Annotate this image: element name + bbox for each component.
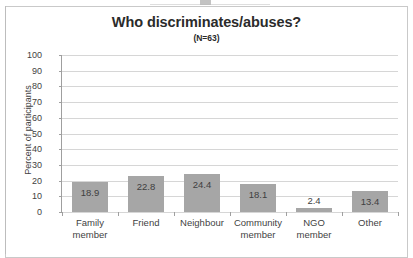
- bar-value-label: 22.8: [121, 182, 171, 192]
- chart-title: Who discriminates/abuses?: [0, 14, 413, 30]
- x-category-label-line: Other: [337, 217, 403, 229]
- y-tick-mark: [59, 196, 62, 197]
- y-tick-label: 40: [2, 145, 42, 154]
- y-tick-label: 0: [2, 208, 42, 217]
- x-tick-mark: [230, 212, 231, 216]
- scan-artifact-smudge: [200, 0, 211, 5]
- y-tick-mark: [59, 165, 62, 166]
- x-category-label-line: member: [57, 229, 123, 241]
- y-tick-label: 80: [2, 82, 42, 91]
- y-gridline: [62, 86, 398, 87]
- y-gridline: [62, 55, 398, 56]
- y-tick-mark: [59, 181, 62, 182]
- x-tick-mark: [118, 212, 119, 216]
- y-tick-mark: [59, 118, 62, 119]
- y-tick-mark: [59, 134, 62, 135]
- bar-value-label: 18.1: [233, 190, 283, 200]
- bar-value-label: 18.9: [65, 188, 115, 198]
- bar[interactable]: [296, 208, 332, 212]
- chart-subtitle: (N=63): [0, 33, 413, 43]
- bar-value-label: 13.4: [345, 197, 395, 207]
- y-tick-mark: [59, 102, 62, 103]
- y-tick-label: 90: [2, 67, 42, 76]
- y-gridline: [62, 181, 398, 182]
- y-tick-label: 70: [2, 98, 42, 107]
- y-tick-label: 50: [2, 130, 42, 139]
- y-gridline: [62, 149, 398, 150]
- y-gridline: [62, 71, 398, 72]
- x-category-label-line: member: [281, 229, 347, 241]
- x-tick-mark: [342, 212, 343, 216]
- x-tick-mark: [398, 212, 399, 216]
- y-gridline: [62, 118, 398, 119]
- y-tick-label: 20: [2, 177, 42, 186]
- y-tick-label: 100: [2, 51, 42, 60]
- bar-value-label: 2.4: [289, 196, 339, 206]
- x-tick-mark: [286, 212, 287, 216]
- x-tick-mark: [62, 212, 63, 216]
- x-category-label: Other: [337, 217, 403, 229]
- bar-value-label: 24.4: [177, 180, 227, 190]
- y-tick-mark: [59, 55, 62, 56]
- x-tick-mark: [174, 212, 175, 216]
- y-gridline: [62, 102, 398, 103]
- y-gridline: [62, 165, 398, 166]
- y-tick-mark: [59, 149, 62, 150]
- y-tick-label: 10: [2, 192, 42, 201]
- y-tick-label: 60: [2, 114, 42, 123]
- y-tick-mark: [59, 71, 62, 72]
- y-gridline: [62, 134, 398, 135]
- y-tick-label: 30: [2, 161, 42, 170]
- y-tick-mark: [59, 86, 62, 87]
